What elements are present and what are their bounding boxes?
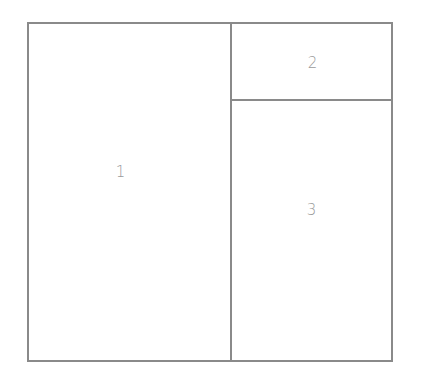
layout-frame: 1 2 3 — [27, 22, 393, 362]
panel-3-label: 3 — [307, 203, 317, 218]
panel-1: 1 — [29, 24, 232, 360]
panel-3: 3 — [232, 101, 391, 360]
panel-2-label: 2 — [308, 56, 318, 71]
panel-2: 2 — [232, 24, 391, 99]
panel-1-label: 1 — [116, 165, 126, 180]
